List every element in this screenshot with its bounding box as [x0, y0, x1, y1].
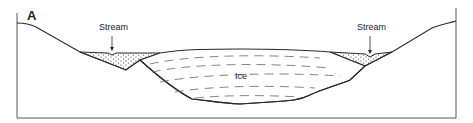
left-stream-label: Stream: [99, 22, 128, 32]
ice-body: [140, 49, 365, 104]
left-stream-arrow-icon: [110, 36, 114, 51]
right-stream-label: Stream: [357, 22, 386, 32]
right-stream-arrow-icon: [368, 36, 372, 54]
ice-label: Ice: [235, 71, 247, 81]
glacier-cross-section-diagram: A Stream Stream Ice: [0, 0, 473, 123]
panel-label: A: [27, 8, 37, 23]
